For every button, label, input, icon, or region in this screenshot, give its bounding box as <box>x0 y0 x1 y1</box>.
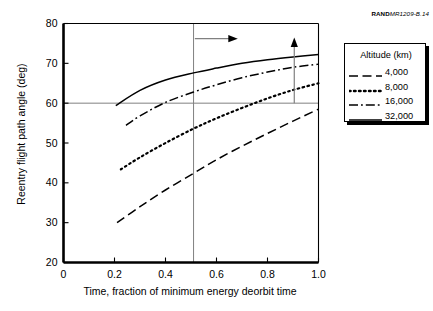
x-tick-label: 0.2 <box>100 269 130 279</box>
arrow-head <box>228 35 238 42</box>
x-tick-label: 0 <box>49 269 79 279</box>
legend-entry-16000: 16,000 <box>345 94 427 108</box>
legend-label: 8,000 <box>385 82 408 92</box>
series-line-4000 <box>117 109 318 223</box>
legend-swatch-dashdot <box>349 96 382 106</box>
horizontal-arrow <box>195 35 238 42</box>
x-tick-label: 0.8 <box>253 269 283 279</box>
y-axis-label: Reentry flight path angle (deg) <box>15 34 27 234</box>
series-line-8000 <box>121 83 319 169</box>
legend-entry-4000: 4,000 <box>345 65 427 79</box>
legend-swatch-dotted <box>349 82 382 92</box>
legend-entry-8000: 8,000 <box>345 80 427 94</box>
y-tick-label: 70 <box>32 58 58 68</box>
legend-title: Altitude (km) <box>345 50 427 60</box>
arrow-head <box>291 37 298 47</box>
y-tick-label: 30 <box>32 217 58 227</box>
legend-swatch-solid <box>349 111 382 121</box>
legend-label: 32,000 <box>385 111 413 121</box>
x-axis-label: Time, fraction of minimum energy deorbit… <box>0 285 380 297</box>
y-tick-label: 80 <box>32 18 58 28</box>
figure-container: RANDMR1209-B.14 Reentry flight path angl… <box>0 0 433 311</box>
y-tick-label: 60 <box>32 98 58 108</box>
legend-swatch-dashed <box>349 67 382 77</box>
series-line-32000 <box>116 55 319 106</box>
x-tick-label: 0.6 <box>202 269 232 279</box>
x-tick-label: 0.4 <box>151 269 181 279</box>
legend-entry-32000: 32,000 <box>345 109 427 123</box>
y-tick-label: 20 <box>32 257 58 267</box>
vertical-arrow <box>291 37 298 103</box>
legend-label: 4,000 <box>385 67 408 77</box>
y-tick-label: 40 <box>32 177 58 187</box>
x-tick-label: 1.0 <box>304 269 334 279</box>
legend-box: Altitude (km) 4,0008,00016,00032,000 <box>344 43 426 122</box>
y-tick-label: 50 <box>32 138 58 148</box>
legend-label: 16,000 <box>385 96 413 106</box>
